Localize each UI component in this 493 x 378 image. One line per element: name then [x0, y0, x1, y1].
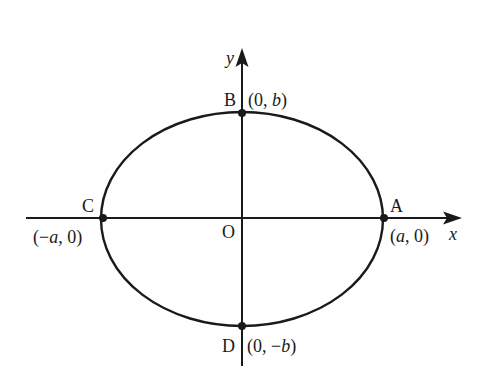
origin-label: O — [222, 222, 235, 242]
y-axis-label: y — [224, 48, 234, 68]
point-d-label: D — [222, 336, 235, 356]
point-b-coords: (0, b) — [248, 90, 287, 111]
point-b-dot — [238, 109, 246, 117]
point-a-dot — [380, 214, 388, 222]
point-c-label: C — [82, 196, 94, 216]
point-c-coords: (−a, 0) — [33, 227, 82, 248]
ellipse-diagram-svg: x y O A (a, 0) B (0, b) C (−a, 0) D (0, … — [0, 0, 493, 378]
point-c-dot — [99, 214, 107, 222]
point-d-coords: (0, −b) — [247, 336, 296, 357]
x-axis-label: x — [448, 224, 457, 244]
point-a-coords: (a, 0) — [390, 226, 429, 247]
ellipse-diagram: x y O A (a, 0) B (0, b) C (−a, 0) D (0, … — [0, 0, 493, 378]
point-b-label: B — [224, 90, 236, 110]
point-d-dot — [238, 322, 246, 330]
point-a-label: A — [390, 196, 403, 216]
